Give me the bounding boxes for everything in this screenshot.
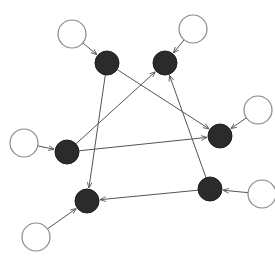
light-node-W5 <box>248 180 275 208</box>
dark-node-B <box>153 51 177 75</box>
light-node-W6 <box>22 223 50 251</box>
dark-node-C <box>208 124 232 148</box>
edge-D-to-C <box>79 137 207 150</box>
light-node-W2 <box>179 15 207 43</box>
directed-graph <box>0 0 275 258</box>
edge-W4-to-D <box>38 146 55 149</box>
edge-W5-to-E <box>223 190 248 193</box>
light-node-W4 <box>10 129 38 157</box>
dark-node-F <box>75 189 99 213</box>
edge-E-to-B <box>169 75 206 178</box>
dark-node-A <box>95 51 119 75</box>
graph-canvas <box>0 0 275 258</box>
edge-E-to-F <box>100 190 198 200</box>
edge-W6-to-F <box>47 209 76 229</box>
light-node-W1 <box>58 20 86 48</box>
edge-W3-to-C <box>231 118 247 129</box>
dark-node-D <box>55 140 79 164</box>
edge-D-to-B <box>76 72 155 144</box>
edge-W1-to-A <box>83 43 97 55</box>
dark-node-E <box>198 177 222 201</box>
edge-W2-to-B <box>173 40 184 53</box>
edge-A-to-C <box>117 70 209 129</box>
nodes-layer <box>10 15 275 251</box>
edge-A-to-F <box>89 75 105 188</box>
light-node-W3 <box>244 96 272 124</box>
